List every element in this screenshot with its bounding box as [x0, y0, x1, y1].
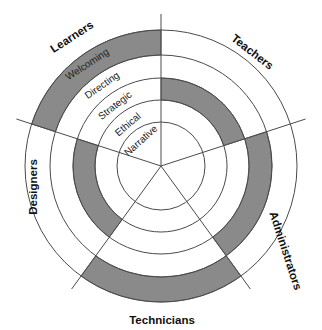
sector-label-learners: Learners	[48, 18, 95, 55]
sector-label-designers: Designers	[27, 159, 39, 215]
sector-label-administrators: Administrators	[267, 210, 304, 292]
role-ring-diagram: Learners Teachers Administrators Technic…	[0, 0, 322, 330]
highlight-band-designers	[73, 139, 122, 237]
highlight-band-technicians	[81, 256, 241, 302]
highlight-band-administrators	[213, 132, 272, 256]
sector-label-technicians: Technicians	[129, 314, 195, 326]
